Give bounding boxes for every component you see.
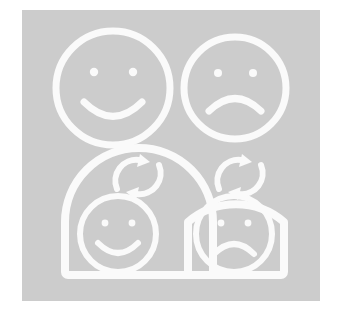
happy-card-face-icon	[80, 196, 156, 272]
happy-card-face-left-eye	[102, 220, 109, 227]
sad-refresh-arc-right	[239, 165, 263, 194]
happy-face-left-eye-icon	[90, 68, 98, 76]
sad-refresh-arrow-top	[239, 154, 252, 167]
sad-card-face-left-eye	[218, 220, 225, 227]
illustration-panel	[22, 10, 320, 301]
sad-face-outline-icon	[184, 37, 286, 139]
sad-face-left-eye-icon	[214, 69, 222, 77]
sad-card[interactable]	[188, 154, 284, 275]
happy-refresh-arc-right	[137, 165, 161, 194]
sad-card-face-frown	[214, 244, 254, 254]
happy-card-face-smile	[98, 243, 138, 253]
sad-face-frown-icon	[209, 99, 261, 112]
illustration-canvas	[22, 10, 320, 301]
happy-face-outline-icon	[56, 31, 170, 145]
happy-face-smile-icon	[84, 102, 142, 117]
happy-card-face-outline	[80, 196, 156, 272]
happy-card-face-right-eye	[129, 220, 136, 227]
illustration-root: Satisfaction feedback illustration Two f…	[0, 0, 340, 315]
sad-card-face-right-eye	[245, 220, 252, 227]
happy-refresh-arc-left	[115, 160, 139, 189]
happy-refresh-arrow-top	[137, 154, 150, 167]
sad-face[interactable]	[184, 37, 286, 139]
sad-card-refresh-icon[interactable]	[217, 154, 262, 200]
happy-face[interactable]	[56, 31, 170, 145]
happy-card-refresh-icon[interactable]	[115, 154, 160, 200]
sad-face-right-eye-icon	[249, 69, 257, 77]
illustration-description: Two face icons above two arch-shaped car…	[0, 0, 1, 1]
sad-refresh-arc-left	[217, 160, 241, 189]
happy-face-right-eye-icon	[129, 68, 137, 76]
illustration-title: Satisfaction feedback illustration	[0, 0, 1, 1]
